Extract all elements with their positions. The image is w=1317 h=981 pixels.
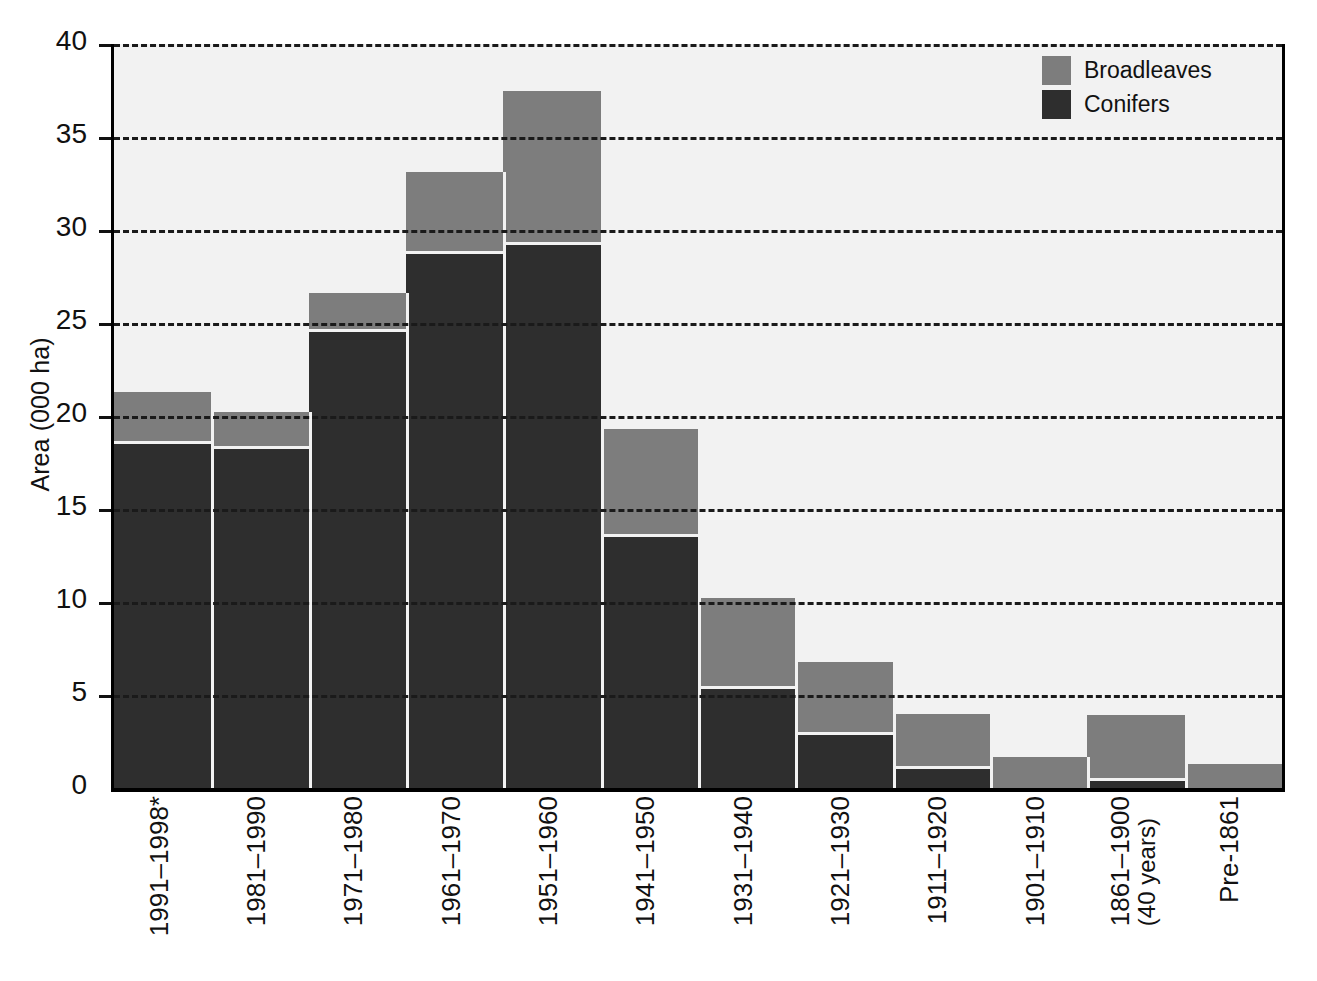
- bar-separator: [503, 172, 506, 788]
- bar-column[interactable]: [893, 714, 990, 788]
- bar-segment-conifers[interactable]: [698, 689, 795, 788]
- x-axis-label: 1951–1960: [535, 796, 562, 926]
- legend-label-broadleaves: Broadleaves: [1084, 59, 1212, 82]
- x-axis-label: Pre-1861: [1217, 796, 1244, 903]
- x-axis-label: 1911–1920: [925, 796, 952, 924]
- y-tick-label: 5: [17, 678, 87, 706]
- bar-segment-broadleaves[interactable]: [114, 392, 211, 444]
- bar-segment-broadleaves[interactable]: [698, 598, 795, 689]
- bar-segment-broadleaves[interactable]: [406, 172, 503, 254]
- legend: Broadleaves Conifers: [1042, 56, 1212, 124]
- bar-segment-conifers[interactable]: [211, 449, 308, 788]
- x-axis-label: 1961–1970: [438, 796, 465, 926]
- x-axis-label: 1971–1980: [341, 796, 368, 926]
- bar-column[interactable]: [211, 412, 308, 788]
- bar-segment-conifers[interactable]: [1087, 781, 1184, 788]
- x-axis-label: 1991–1998*: [146, 796, 173, 936]
- bar-segment-broadleaves[interactable]: [211, 412, 308, 449]
- bar-separator: [893, 662, 896, 788]
- bar-column[interactable]: [503, 91, 600, 789]
- y-tick-label: 10: [17, 585, 87, 613]
- y-tick-label: 40: [17, 27, 87, 55]
- x-axis-label-slot: 1991–1998*: [111, 796, 208, 981]
- bar-segment-conifers[interactable]: [309, 332, 406, 788]
- stacked-bar-chart: Area (000 ha) 0510152025303540 1991–1998…: [0, 0, 1317, 981]
- legend-item-broadleaves[interactable]: Broadleaves: [1042, 56, 1212, 85]
- legend-swatch-conifers: [1042, 90, 1071, 119]
- bar-column[interactable]: [1185, 764, 1282, 788]
- bar-segment-broadleaves[interactable]: [893, 714, 990, 770]
- y-tick-label: 35: [17, 120, 87, 148]
- x-axis-label-slot: 1901–1910: [987, 796, 1084, 981]
- bar-column[interactable]: [309, 293, 406, 788]
- bar-segment-broadleaves[interactable]: [1185, 764, 1282, 788]
- bars-layer: [114, 44, 1282, 788]
- x-axis-label-slot: 1981–1990: [208, 796, 305, 981]
- x-axis-label: 1941–1950: [633, 796, 660, 926]
- x-axis-label: 1861–1900(40 years): [1107, 796, 1159, 926]
- bar-column[interactable]: [114, 392, 211, 788]
- legend-item-conifers[interactable]: Conifers: [1042, 90, 1212, 119]
- x-axis-labels: 1991–1998*1981–19901971–19801961–1970195…: [111, 796, 1279, 981]
- x-axis-label-slot: 1911–1920: [890, 796, 987, 981]
- legend-swatch-broadleaves: [1042, 56, 1071, 85]
- bar-column[interactable]: [1087, 715, 1184, 788]
- legend-label-conifers: Conifers: [1084, 93, 1170, 116]
- bar-column[interactable]: [990, 757, 1087, 788]
- bar-segment-conifers[interactable]: [503, 245, 600, 788]
- bar-separator: [795, 598, 798, 788]
- bar-segment-conifers[interactable]: [114, 444, 211, 788]
- x-axis-label-slot: 1951–1960: [500, 796, 597, 981]
- bar-segment-broadleaves[interactable]: [990, 757, 1087, 788]
- bar-column[interactable]: [406, 172, 503, 788]
- bar-segment-conifers[interactable]: [893, 769, 990, 788]
- bar-segment-broadleaves[interactable]: [795, 662, 892, 735]
- bar-segment-broadleaves[interactable]: [309, 293, 406, 332]
- bar-separator: [990, 714, 993, 788]
- bar-segment-broadleaves[interactable]: [503, 91, 600, 245]
- bar-segment-broadleaves[interactable]: [601, 429, 698, 537]
- x-axis-label-slot: 1971–1980: [306, 796, 403, 981]
- x-axis-label-slot: 1941–1950: [598, 796, 695, 981]
- bar-segment-broadleaves[interactable]: [1087, 715, 1184, 781]
- bar-separator: [406, 293, 409, 788]
- x-axis-label-slot: 1961–1970: [403, 796, 500, 981]
- bar-segment-conifers[interactable]: [795, 735, 892, 788]
- bar-separator: [601, 91, 604, 789]
- x-axis-label-slot: 1861–1900(40 years): [1084, 796, 1181, 981]
- bar-column[interactable]: [601, 429, 698, 788]
- bar-separator: [698, 429, 701, 788]
- bar-column[interactable]: [795, 662, 892, 788]
- bar-column[interactable]: [698, 598, 795, 788]
- bar-segment-conifers[interactable]: [601, 537, 698, 788]
- y-tick-label: 20: [17, 399, 87, 427]
- bar-separator: [309, 412, 312, 788]
- bar-separator: [211, 392, 214, 788]
- bar-separator: [1185, 715, 1188, 788]
- x-axis-label: 1901–1910: [1022, 796, 1049, 926]
- x-axis-label: 1921–1930: [827, 796, 854, 926]
- bar-separator: [1087, 757, 1090, 788]
- bar-segment-conifers[interactable]: [406, 254, 503, 788]
- plot-area: [111, 44, 1285, 792]
- x-axis-label-slot: 1921–1930: [792, 796, 889, 981]
- x-axis-label: 1931–1940: [730, 796, 757, 926]
- y-tick-label: 15: [17, 492, 87, 520]
- y-tick-label: 0: [17, 771, 87, 799]
- x-axis-label-slot: Pre-1861: [1182, 796, 1279, 981]
- y-tick-label: 30: [17, 213, 87, 241]
- x-axis-label: 1981–1990: [243, 796, 270, 926]
- x-axis-label-slot: 1931–1940: [695, 796, 792, 981]
- y-tick-label: 25: [17, 306, 87, 334]
